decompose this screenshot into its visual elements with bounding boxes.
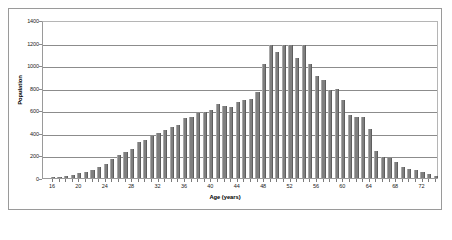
bar: [176, 125, 180, 178]
x-axis-tick-label: 68: [385, 183, 405, 189]
x-axis-tick-label: 72: [412, 183, 432, 189]
x-axis-tick-label: 52: [280, 183, 300, 189]
bar: [123, 152, 127, 178]
y-axis-tick-label: 1200: [13, 41, 39, 47]
y-axis-tick-label: 600: [13, 108, 39, 114]
bar: [341, 100, 345, 178]
bar: [282, 45, 286, 178]
x-axis-tick-mark: [263, 179, 264, 182]
bar: [183, 118, 187, 178]
x-axis-tick-mark: [290, 179, 291, 182]
bar: [77, 173, 81, 178]
x-axis-tick-mark: [111, 179, 112, 182]
bar: [348, 115, 352, 178]
x-axis-tick-label: 24: [95, 183, 115, 189]
x-axis-tick-mark: [237, 179, 238, 182]
x-axis-tick-mark: [329, 179, 330, 182]
x-axis-tick-mark: [158, 179, 159, 182]
bar: [203, 112, 207, 178]
x-axis-tick-label: 48: [253, 183, 273, 189]
x-axis-tick-mark: [131, 179, 132, 182]
plot-area: [42, 21, 438, 179]
x-axis-tick-mark: [415, 179, 416, 182]
x-axis-tick-mark: [336, 179, 337, 182]
bar: [51, 177, 55, 178]
x-axis-tick-mark: [270, 179, 271, 182]
bar: [361, 117, 365, 178]
x-axis-tick-label: 36: [174, 183, 194, 189]
bar: [401, 167, 405, 178]
x-axis-tick-label: 16: [42, 183, 62, 189]
bar: [414, 170, 418, 178]
bar: [328, 90, 332, 178]
x-axis-tick-mark: [356, 179, 357, 182]
y-axis-tick-labels: 0200400600800100012001400: [9, 21, 39, 179]
bar: [420, 172, 424, 178]
x-axis-tick-mark: [422, 179, 423, 182]
x-axis-tick-mark: [85, 179, 86, 182]
bar: [269, 45, 273, 178]
bar: [196, 113, 200, 178]
x-axis-tick-mark: [217, 179, 218, 182]
bar: [90, 170, 94, 178]
bar: [275, 52, 279, 178]
x-axis-tick-mark: [177, 179, 178, 182]
x-axis-tick-mark: [151, 179, 152, 182]
x-axis-tick-mark: [184, 179, 185, 182]
y-axis-tick-label: 800: [13, 86, 39, 92]
x-axis-tick-label: 40: [200, 183, 220, 189]
bar: [321, 80, 325, 178]
x-axis-tick-mark: [59, 179, 60, 182]
x-axis-tick-mark: [92, 179, 93, 182]
bar: [315, 76, 319, 178]
x-axis-tick-mark: [375, 179, 376, 182]
x-axis-tick-label: 32: [148, 183, 168, 189]
y-axis-tick-label: 0: [13, 176, 39, 182]
bar: [427, 174, 431, 178]
bar: [216, 104, 220, 178]
x-axis-tick-mark: [98, 179, 99, 182]
x-axis-tick-mark: [230, 179, 231, 182]
x-axis-title: Age (years): [9, 194, 441, 200]
x-axis-tick-mark: [125, 179, 126, 182]
x-axis-tick-label: 28: [121, 183, 141, 189]
x-axis-tick-label: 56: [306, 183, 326, 189]
x-axis-tick-mark: [369, 179, 370, 182]
bar: [104, 164, 108, 178]
bar: [57, 177, 61, 178]
x-axis-tick-mark: [389, 179, 390, 182]
x-axis-tick-labels: 162024283236404448525660646872: [42, 183, 438, 193]
x-axis-tick-mark: [323, 179, 324, 182]
bar: [262, 64, 266, 178]
bar: [189, 117, 193, 179]
bar: [236, 102, 240, 178]
x-axis-tick-mark: [309, 179, 310, 182]
x-axis-tick-mark: [250, 179, 251, 182]
x-axis-tick-mark: [349, 179, 350, 182]
x-axis-tick-mark: [316, 179, 317, 182]
x-axis-tick-label: 20: [68, 183, 88, 189]
bar: [222, 106, 226, 178]
bar: [394, 162, 398, 178]
x-axis-tick-mark: [402, 179, 403, 182]
x-axis-tick-mark: [197, 179, 198, 182]
x-axis-tick-mark: [296, 179, 297, 182]
bar: [295, 58, 299, 178]
x-axis-tick-mark: [342, 179, 343, 182]
bar: [64, 176, 68, 178]
x-axis-tick-mark: [144, 179, 145, 182]
x-axis-tick-mark: [52, 179, 53, 182]
x-axis-tick-mark: [65, 179, 66, 182]
x-axis-tick-mark: [435, 179, 436, 182]
bar: [387, 158, 391, 178]
x-axis-tick-label: 44: [227, 183, 247, 189]
bar: [374, 151, 378, 178]
x-axis-tick-mark: [362, 179, 363, 182]
bar: [150, 136, 154, 178]
bar: [255, 92, 259, 178]
bar: [156, 133, 160, 178]
bar: [242, 100, 246, 178]
x-axis-tick-mark: [118, 179, 119, 182]
bar: [249, 99, 253, 178]
bar: [354, 117, 358, 179]
